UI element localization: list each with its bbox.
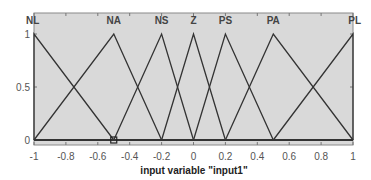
mf-label-ps: PS — [219, 15, 233, 26]
mf-label-pl: PL — [348, 15, 361, 26]
mf-label-na: NA — [107, 15, 121, 26]
mf-label-z: Z — [190, 15, 196, 26]
membership-function-plot: -1-0.8-0.6-0.4-0.200.20.40.60.81 00.51 N… — [0, 0, 371, 180]
x-tick-label: -0.8 — [57, 151, 75, 162]
x-tick-label: -0.4 — [121, 151, 139, 162]
mf-label-nl: NL — [26, 15, 39, 26]
x-tick-label: 0.4 — [250, 151, 264, 162]
x-tick-label: -0.2 — [153, 151, 171, 162]
y-tick-label: 0 — [24, 135, 30, 146]
y-tick-label: 0.5 — [16, 82, 30, 93]
x-tick-label: 0.6 — [282, 151, 296, 162]
x-tick-label: 0 — [191, 151, 197, 162]
mf-label-ns: NS — [155, 15, 169, 26]
x-axis-title: input variable "input1" — [140, 165, 248, 176]
x-tick-label: 0.2 — [218, 151, 232, 162]
x-tick-label: -0.6 — [89, 151, 107, 162]
x-tick-label: -1 — [30, 151, 39, 162]
x-tick-label: 0.8 — [314, 151, 328, 162]
y-tick-label: 1 — [24, 29, 30, 40]
x-tick-label: 1 — [350, 151, 356, 162]
mf-label-pa: PA — [267, 15, 280, 26]
